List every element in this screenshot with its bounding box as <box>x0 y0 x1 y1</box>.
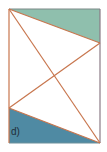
segment-f-e <box>9 43 100 108</box>
figure-label: d) <box>11 127 20 137</box>
